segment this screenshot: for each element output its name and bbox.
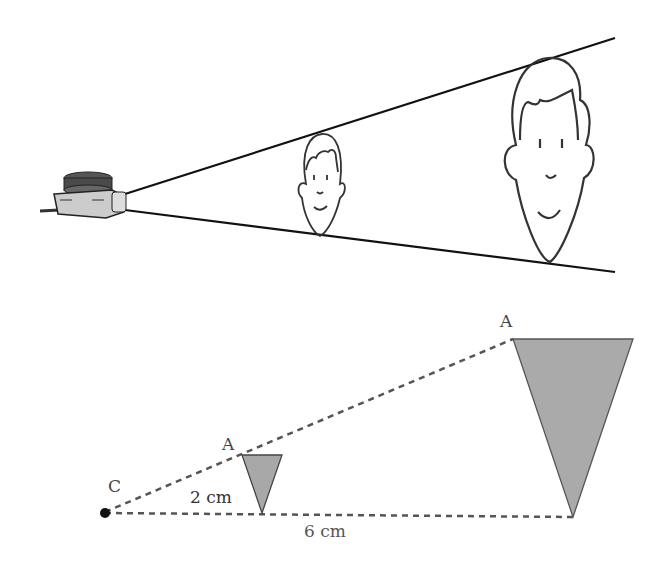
large-face-icon [505,58,594,262]
small-vertex-label: A [222,434,234,454]
small-triangle [242,455,282,513]
large-triangle [513,339,633,517]
baseline-ray [105,513,573,517]
large-vertex-label: A [500,311,512,331]
figure-canvas [0,0,670,574]
projector-icon [40,172,126,218]
beam-top [125,38,615,194]
center-label: C [108,476,121,496]
ray-to-a [105,339,513,512]
large-distance-label: 6 cm [304,521,346,541]
center-point [100,508,110,518]
beam-bottom [125,210,615,272]
small-face-icon [299,134,345,236]
small-distance-label: 2 cm [190,487,232,507]
